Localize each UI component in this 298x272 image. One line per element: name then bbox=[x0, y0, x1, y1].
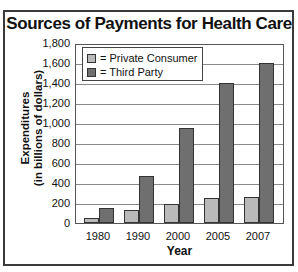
y-tick-label: 200 bbox=[20, 197, 70, 209]
gridline bbox=[76, 124, 283, 125]
bar-private-consumer-2000 bbox=[164, 204, 179, 223]
bar-third-party-1990 bbox=[139, 176, 154, 223]
x-tick-label: 2000 bbox=[158, 230, 198, 242]
x-tick-label: 2007 bbox=[238, 230, 278, 242]
x-axis-label: Year bbox=[75, 244, 284, 258]
bar-third-party-2005 bbox=[219, 83, 234, 223]
y-tick-label: 0 bbox=[20, 217, 70, 229]
x-tick-label: 2005 bbox=[198, 230, 238, 242]
plot-area: = Private Consumer = Third Party bbox=[75, 44, 284, 224]
gridline bbox=[76, 104, 283, 105]
y-tick-label: 1,600 bbox=[20, 57, 70, 69]
y-tick-label: 800 bbox=[20, 137, 70, 149]
y-tick-label: 600 bbox=[20, 157, 70, 169]
bar-private-consumer-2005 bbox=[204, 198, 219, 223]
y-tick-label: 1,400 bbox=[20, 77, 70, 89]
bar-third-party-1980 bbox=[99, 208, 114, 223]
y-tick-label: 400 bbox=[20, 177, 70, 189]
x-tick-label: 1980 bbox=[78, 230, 118, 242]
x-tick-label: 1990 bbox=[118, 230, 158, 242]
y-tick-label: 1,200 bbox=[20, 97, 70, 109]
y-tick-label: 1,000 bbox=[20, 117, 70, 129]
y-tick-label: 1,800 bbox=[20, 37, 70, 49]
gridline bbox=[76, 84, 283, 85]
legend-label-private-consumer: = Private Consumer bbox=[100, 52, 198, 64]
bar-third-party-2007 bbox=[259, 63, 274, 223]
chart-title: Sources of Payments for Health Care bbox=[0, 14, 298, 34]
legend: = Private Consumer = Third Party bbox=[82, 47, 203, 81]
bar-private-consumer-1980 bbox=[84, 218, 99, 223]
legend-item-private-consumer: = Private Consumer bbox=[87, 51, 198, 65]
legend-swatch-private-consumer bbox=[87, 54, 96, 63]
legend-item-third-party: = Third Party bbox=[87, 65, 163, 79]
legend-label-third-party: = Third Party bbox=[100, 66, 163, 78]
bar-third-party-2000 bbox=[179, 128, 194, 223]
legend-swatch-third-party bbox=[87, 68, 96, 77]
bar-private-consumer-2007 bbox=[244, 197, 259, 223]
bar-private-consumer-1990 bbox=[124, 210, 139, 223]
